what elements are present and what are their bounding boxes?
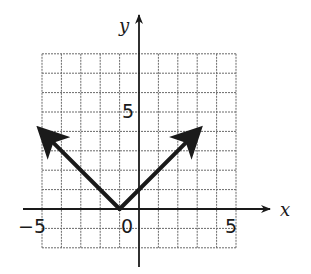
tick-label-5y: 5 xyxy=(122,100,134,122)
y-axis-label: y xyxy=(118,15,130,36)
tick-label-0: 0 xyxy=(121,215,133,237)
curve-left-branch xyxy=(42,131,120,209)
absolute-value-curve xyxy=(42,131,197,209)
coordinate-plane: x y −5 0 5 5 xyxy=(0,0,311,274)
tick-label-5x: 5 xyxy=(225,215,237,237)
tick-label-neg5: −5 xyxy=(18,215,46,237)
curve-right-branch xyxy=(120,131,198,209)
x-axis-label: x xyxy=(280,199,290,220)
